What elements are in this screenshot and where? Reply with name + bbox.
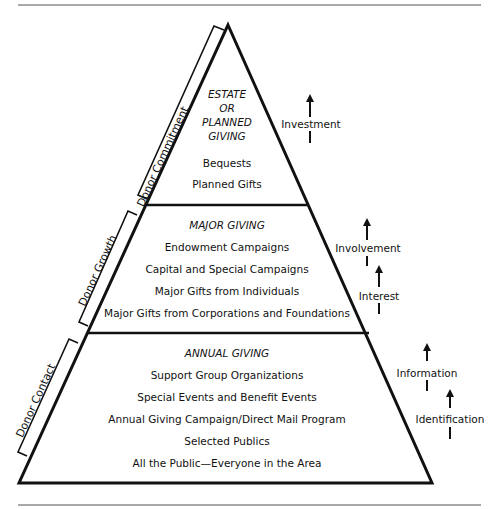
tier-title-line: OR: [219, 102, 235, 114]
progression-label: Interest: [359, 290, 399, 302]
arrow-head-icon: [446, 389, 454, 397]
tier-item: Bequests: [203, 157, 252, 169]
tier-major-giving: MAJOR GIVING Endowment Campaigns Capital…: [104, 219, 350, 319]
tier-title-line: PLANNED: [202, 116, 252, 128]
tier-item: Selected Publics: [184, 435, 269, 447]
progression-identification: Identification: [416, 389, 485, 439]
arrow-head-icon: [306, 94, 314, 102]
tier-item: Major Gifts from Individuals: [155, 285, 299, 297]
side-label-donor-growth: Donor Growth: [76, 233, 120, 308]
tier-annual-giving: ANNUAL GIVING Support Group Organization…: [108, 347, 345, 469]
tier-estate-planned-giving: ESTATE OR PLANNED GIVING Bequests Planne…: [192, 88, 262, 190]
tier-item: Planned Gifts: [192, 178, 262, 190]
tier-title-line: ESTATE: [208, 88, 247, 100]
bracket-donor-contact: [18, 339, 78, 456]
side-label-donor-contact: Donor Contact: [13, 361, 58, 440]
progression-label: Identification: [416, 413, 485, 425]
progression-involvement: Involvement: [335, 218, 400, 266]
arrow-head-icon: [363, 218, 371, 226]
progression-interest: Interest: [359, 265, 399, 314]
tier-item: Annual Giving Campaign/Direct Mail Progr…: [108, 413, 345, 425]
tier-title: MAJOR GIVING: [189, 219, 265, 231]
tier-item: Major Gifts from Corporations and Founda…: [104, 307, 350, 319]
tier-item: Capital and Special Campaigns: [145, 263, 308, 275]
arrow-head-icon: [375, 265, 383, 273]
progression-investment: Investment: [281, 94, 340, 143]
pyramid-diagram: Donor Commitment Donor Growth Donor Cont…: [0, 0, 499, 509]
tier-item: Support Group Organizations: [151, 369, 304, 381]
tier-item: Special Events and Benefit Events: [137, 391, 317, 403]
progression-label: Information: [397, 367, 458, 379]
tier-item: All the Public—Everyone in the Area: [133, 457, 322, 469]
tier-item: Endowment Campaigns: [165, 241, 290, 253]
progression-label: Involvement: [335, 242, 400, 254]
side-label-donor-commitment: Donor Commitment: [134, 104, 191, 209]
progression-information: Information: [397, 343, 458, 391]
arrow-head-icon: [423, 343, 431, 351]
progression-label: Investment: [281, 118, 340, 130]
tier-title-line: GIVING: [208, 130, 246, 142]
tier-title: ANNUAL GIVING: [184, 347, 269, 359]
